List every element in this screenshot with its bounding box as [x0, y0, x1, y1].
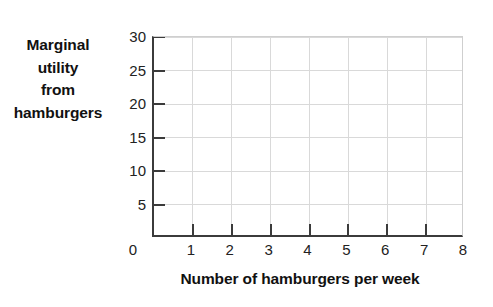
y-axis-title-line: hamburgers: [2, 102, 114, 125]
x-tick-label: 5: [331, 242, 361, 258]
x-axis-title: Number of hamburgers per week: [120, 269, 480, 288]
y-tick-label: 15: [112, 130, 146, 145]
x-tick-label: 3: [254, 242, 284, 258]
origin-tick-label: 0: [118, 242, 148, 258]
x-tick-mark: [386, 224, 388, 235]
y-tick-label: 25: [112, 63, 146, 78]
y-tick-mark: [154, 170, 165, 172]
x-gridline: [309, 37, 310, 235]
x-gridline: [348, 37, 349, 235]
y-gridline: [154, 37, 462, 38]
y-axis-title-line: utility: [2, 57, 114, 80]
x-gridline: [270, 37, 271, 235]
x-gridline: [426, 37, 427, 235]
y-gridline: [154, 104, 462, 105]
grid-layer: [154, 37, 462, 235]
y-axis-tick-labels: 51015202530: [110, 36, 146, 237]
x-tick-label: 8: [448, 242, 478, 258]
x-tick-label: 7: [409, 242, 439, 258]
x-tick-mark: [425, 224, 427, 235]
x-tick-mark: [192, 224, 194, 235]
x-gridline: [231, 37, 232, 235]
x-axis-tick-labels: 12345678: [152, 242, 463, 262]
y-tick-mark: [154, 70, 165, 72]
y-tick-label: 30: [112, 29, 146, 44]
x-gridline: [387, 37, 388, 235]
chart-figure: Marginal utility from hamburgers 5101520…: [0, 0, 493, 307]
y-axis-title: Marginal utility from hamburgers: [2, 34, 114, 124]
y-tick-mark: [154, 37, 165, 38]
y-axis-title-line: from: [2, 79, 114, 102]
x-tick-mark: [309, 224, 311, 235]
y-axis-title-line: Marginal: [2, 34, 114, 57]
y-tick-label: 20: [112, 96, 146, 111]
x-tick-label: 2: [215, 242, 245, 258]
y-gridline: [154, 70, 462, 71]
y-gridline: [154, 171, 462, 172]
x-tick-label: 1: [176, 242, 206, 258]
x-gridline: [192, 37, 193, 235]
y-tick-mark: [154, 137, 165, 139]
x-tick-mark: [270, 224, 272, 235]
y-tick-mark: [154, 204, 165, 206]
y-gridline: [154, 137, 462, 138]
x-tick-label: 6: [370, 242, 400, 258]
y-tick-label: 5: [112, 197, 146, 212]
x-tick-mark: [231, 224, 233, 235]
y-tick-mark: [154, 103, 165, 105]
x-tick-mark: [347, 224, 349, 235]
y-tick-label: 10: [112, 163, 146, 178]
x-tick-label: 4: [293, 242, 323, 258]
y-gridline: [154, 204, 462, 205]
plot-area: [152, 36, 463, 237]
